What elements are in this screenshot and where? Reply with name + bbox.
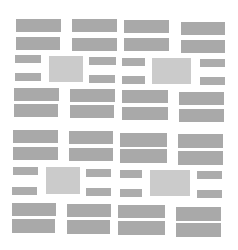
- small-gray-bar: [120, 170, 142, 178]
- gray-bar: [181, 22, 225, 35]
- gray-bar: [12, 219, 55, 233]
- small-gray-bar: [89, 75, 115, 83]
- small-gray-bar: [89, 57, 116, 65]
- small-gray-bar: [12, 187, 37, 195]
- gray-bar: [122, 107, 168, 120]
- gray-bar: [120, 149, 167, 163]
- gray-bar: [118, 221, 165, 235]
- small-gray-bar: [122, 76, 145, 84]
- gray-bar: [176, 223, 221, 237]
- gray-square: [152, 58, 191, 84]
- gray-bar: [179, 92, 224, 105]
- gray-bar: [124, 20, 169, 33]
- gray-bar: [14, 88, 59, 101]
- gray-bar: [178, 151, 223, 165]
- block-pattern-canvas: [0, 0, 238, 250]
- gray-square: [150, 170, 190, 196]
- gray-bar: [16, 37, 60, 50]
- gray-bar: [70, 105, 114, 118]
- small-gray-bar: [197, 190, 222, 198]
- gray-bar: [118, 205, 165, 218]
- small-gray-bar: [86, 188, 111, 196]
- gray-bar: [69, 148, 113, 161]
- small-gray-bar: [200, 77, 225, 85]
- gray-bar: [124, 38, 169, 51]
- small-gray-bar: [15, 55, 41, 63]
- gray-bar: [72, 19, 117, 32]
- small-gray-bar: [197, 171, 222, 179]
- small-gray-bar: [86, 169, 111, 177]
- small-gray-bar: [120, 189, 142, 197]
- gray-bar: [120, 133, 167, 147]
- gray-bar: [16, 19, 61, 32]
- small-gray-bar: [122, 58, 145, 66]
- gray-bar: [181, 40, 225, 53]
- gray-bar: [178, 134, 223, 148]
- gray-bar: [67, 220, 110, 234]
- gray-bar: [72, 38, 117, 51]
- gray-square: [49, 56, 83, 82]
- gray-square: [46, 167, 80, 194]
- gray-bar: [179, 109, 224, 122]
- gray-bar: [70, 89, 115, 102]
- gray-bar: [14, 104, 58, 117]
- small-gray-bar: [15, 73, 41, 81]
- small-gray-bar: [200, 59, 225, 67]
- small-gray-bar: [13, 167, 38, 175]
- gray-bar: [13, 130, 58, 143]
- gray-bar: [12, 203, 56, 216]
- gray-bar: [13, 147, 58, 160]
- gray-bar: [69, 131, 113, 144]
- gray-bar: [122, 90, 168, 103]
- gray-bar: [176, 207, 221, 221]
- gray-bar: [67, 204, 111, 217]
